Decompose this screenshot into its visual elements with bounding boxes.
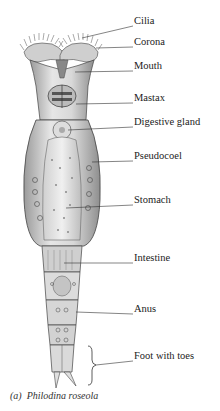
foot-brace	[88, 346, 96, 385]
label-cilia: Cilia	[134, 15, 154, 27]
label-mastax: Mastax	[134, 92, 165, 104]
label-stomach: Stomach	[134, 194, 171, 206]
caption-species: Philodina roseola	[27, 390, 99, 401]
corona	[20, 33, 102, 62]
caption-letter: (a)	[10, 390, 22, 401]
label-corona: Corona	[134, 36, 165, 48]
label-intestine: Intestine	[134, 252, 170, 264]
label-pseudocoel: Pseudocoel	[134, 150, 182, 162]
label-foot-with-toes: Foot with toes	[134, 350, 194, 362]
label-digestive-gland: Digestive gland	[134, 116, 200, 128]
figure-caption: (a) Philodina roseola	[10, 390, 98, 401]
rotifer-diagram: Cilia Corona Mouth Mastax Digestive glan…	[0, 0, 220, 411]
label-mouth: Mouth	[134, 60, 162, 72]
label-anus: Anus	[134, 303, 156, 315]
